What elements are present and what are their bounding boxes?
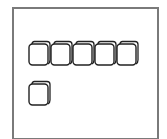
cube-row-count: 5 xyxy=(0,0,1,1)
unit-cube-icon xyxy=(50,40,74,66)
unit-cube-icon xyxy=(28,40,52,66)
unit-cube-icon xyxy=(116,40,140,66)
unit-cube-icon xyxy=(94,40,118,66)
cube-single-count: 1 xyxy=(0,0,1,1)
unit-cube-icon xyxy=(28,80,52,106)
unit-cube-icon xyxy=(72,40,96,66)
total-count: 6 xyxy=(14,9,15,10)
diagram-frame: 6 xyxy=(12,7,159,139)
